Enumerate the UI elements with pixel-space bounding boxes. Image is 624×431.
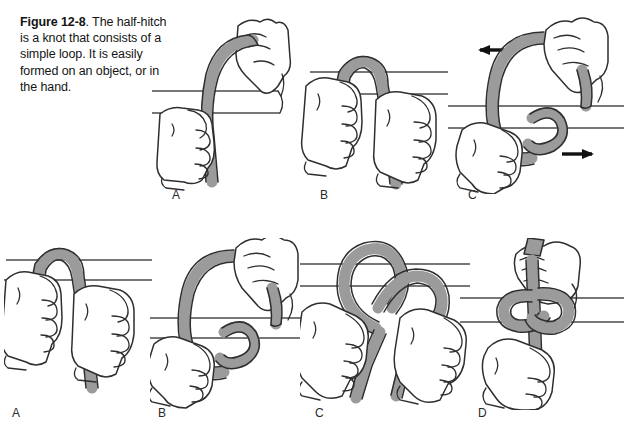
arrow-left-head: [478, 45, 490, 55]
panel-label-bottom-c: C: [315, 406, 324, 420]
panel-label-bottom-b: B: [158, 406, 166, 420]
illustration-bottom-b: [150, 238, 310, 410]
panel-label-bottom-a: A: [12, 406, 20, 420]
illustration-top-b: [300, 14, 450, 194]
arrow-right: [562, 149, 594, 159]
panel-bottom-d: [460, 238, 624, 410]
hand-lower: [456, 123, 522, 194]
arrow-right-head: [582, 149, 594, 159]
hand-lower: [150, 337, 214, 408]
illustration-bottom-a: [4, 238, 154, 410]
rope-free-end: [524, 238, 544, 256]
panel-bottom-a: [4, 238, 154, 410]
panel-top-a: [150, 14, 300, 194]
wrist-line: [288, 294, 293, 320]
hand-upper: [234, 238, 298, 311]
panel-top-b: [300, 14, 450, 194]
panel-label-bottom-d: D: [478, 406, 487, 420]
illustration-top-a: [150, 14, 300, 194]
panel-label-top-a: A: [172, 188, 180, 202]
rope-tail: [582, 70, 587, 106]
wrist-line: [598, 76, 603, 102]
illustration-top-c: [448, 14, 624, 194]
panel-bottom-c: [300, 238, 470, 410]
hand-upper: [544, 18, 608, 93]
illustration-bottom-d: [460, 238, 624, 410]
figure-12-8: Figure 12-8. The half-hitch is a knot th…: [0, 0, 624, 431]
panel-label-top-c: C: [468, 188, 477, 202]
illustration-bottom-c: [300, 238, 470, 410]
figure-number: Figure 12-8: [20, 15, 86, 29]
panel-top-c: [448, 14, 624, 194]
panel-bottom-b: [150, 238, 310, 410]
panel-label-top-b: B: [320, 188, 328, 202]
hand-lower: [482, 339, 554, 410]
rope-tail: [272, 288, 277, 324]
hand-upper: [236, 19, 290, 93]
hand-lower: [157, 108, 215, 184]
